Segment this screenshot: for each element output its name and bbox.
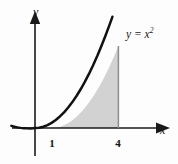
area-under-parabola-figure: y x y = x2 1 4 bbox=[0, 0, 178, 164]
curve-equation-exponent: 2 bbox=[150, 26, 154, 35]
x-axis-label: x bbox=[160, 124, 165, 136]
x-tick-label-1: 1 bbox=[46, 138, 58, 149]
plot-canvas bbox=[0, 0, 178, 164]
x-tick-label-4: 4 bbox=[112, 138, 124, 149]
y-axis-label: y bbox=[33, 6, 38, 18]
curve-equation-base: y = x bbox=[126, 28, 150, 40]
curve-equation-label: y = x2 bbox=[126, 29, 153, 41]
